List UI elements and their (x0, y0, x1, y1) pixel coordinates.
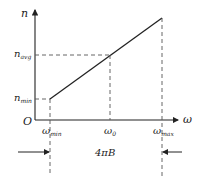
omega0-label: ω0 (104, 125, 116, 137)
y-axis-label: n (21, 7, 28, 20)
x-axis-label: ω (183, 113, 192, 126)
omega-min-label: ωmin (42, 125, 62, 137)
origin-label: O (23, 115, 32, 128)
n-avg-label: navg (14, 48, 31, 61)
n-vs-omega-line (50, 18, 162, 99)
frequency-diagram: n ω O navg nmin ωmin ω0 ωmax 4πB (0, 0, 200, 181)
n-min-label: nmin (14, 92, 32, 104)
omega-max-label: ωmax (153, 125, 174, 137)
span-label: 4πB (94, 147, 115, 158)
